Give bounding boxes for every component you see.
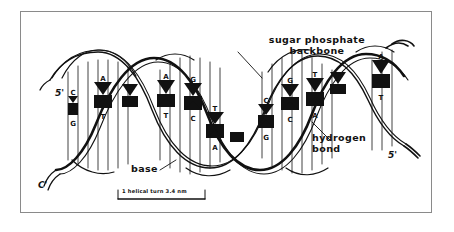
base-letter: T — [313, 71, 318, 79]
figure-canvas: sugar phosphate backbone base hydrogen b… — [0, 0, 454, 232]
base-letter: A — [163, 73, 169, 81]
base-pair-letters: C G A T A T G C T A C G G C T A A T — [0, 0, 454, 232]
base-letter: C — [70, 89, 75, 97]
base-letter: T — [379, 94, 384, 102]
base-letter: T — [101, 113, 106, 121]
base-letter: C — [287, 116, 292, 124]
base-letter: A — [312, 112, 318, 120]
base-letter: G — [287, 77, 293, 85]
base-letter: G — [190, 76, 196, 84]
base-letter: A — [100, 75, 106, 83]
base-letter: T — [213, 105, 218, 113]
base-letter: G — [263, 134, 269, 142]
base-letter: T — [164, 112, 169, 120]
base-letter: A — [212, 144, 218, 152]
base-letter: C — [190, 115, 195, 123]
base-letter: G — [70, 120, 76, 128]
base-letter: A — [378, 53, 384, 61]
base-letter: C — [263, 97, 268, 105]
